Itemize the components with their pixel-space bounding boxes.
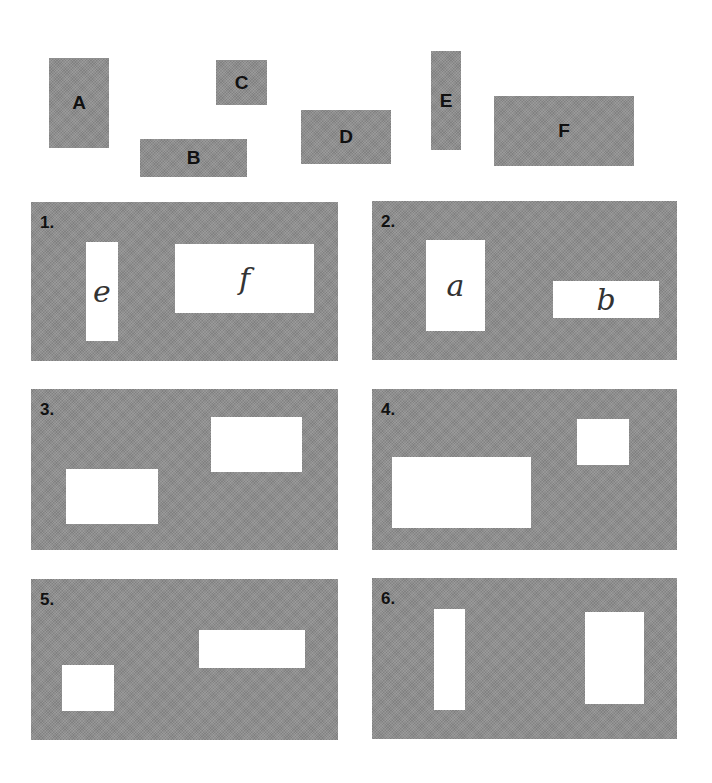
piece-label: D bbox=[339, 126, 353, 148]
shape-piece-f: F bbox=[494, 96, 634, 166]
panel-1: 1.ef bbox=[31, 202, 338, 361]
shape-piece-e: E bbox=[431, 51, 461, 150]
panel-hole: b bbox=[553, 281, 659, 318]
piece-label: A bbox=[72, 92, 86, 114]
panel-5: 5. bbox=[31, 579, 338, 740]
panel-number: 1. bbox=[40, 213, 54, 233]
panel-3: 3. bbox=[31, 389, 338, 550]
panel-hole: a bbox=[426, 240, 485, 331]
shape-piece-a: A bbox=[49, 58, 109, 148]
panel-hole bbox=[577, 419, 629, 465]
panel-hole bbox=[199, 630, 305, 668]
piece-label: B bbox=[187, 147, 201, 169]
handwritten-label: a bbox=[447, 268, 465, 303]
shape-piece-b: B bbox=[140, 139, 247, 177]
handwritten-label: b bbox=[596, 282, 615, 317]
panel-number: 4. bbox=[381, 400, 395, 420]
piece-label: C bbox=[235, 72, 249, 94]
panel-number: 5. bbox=[40, 590, 54, 610]
panel-number: 3. bbox=[40, 400, 54, 420]
handwritten-label: f bbox=[239, 261, 250, 296]
panel-hole bbox=[66, 469, 158, 524]
shape-piece-c: C bbox=[216, 60, 267, 105]
panel-hole bbox=[392, 457, 531, 528]
panel-hole: e bbox=[86, 242, 118, 341]
panel-2: 2.ab bbox=[372, 201, 677, 360]
panel-hole bbox=[211, 417, 302, 472]
shape-piece-d: D bbox=[301, 110, 391, 164]
panel-hole: f bbox=[175, 244, 314, 313]
panel-4: 4. bbox=[372, 389, 677, 550]
handwritten-label: e bbox=[93, 274, 111, 309]
panel-number: 6. bbox=[381, 589, 395, 609]
panel-number: 2. bbox=[381, 212, 395, 232]
panel-6: 6. bbox=[372, 578, 677, 739]
panel-hole bbox=[62, 665, 114, 711]
piece-label: F bbox=[558, 120, 570, 142]
panel-hole bbox=[434, 609, 465, 710]
panel-hole bbox=[585, 612, 644, 704]
piece-label: E bbox=[440, 90, 453, 112]
